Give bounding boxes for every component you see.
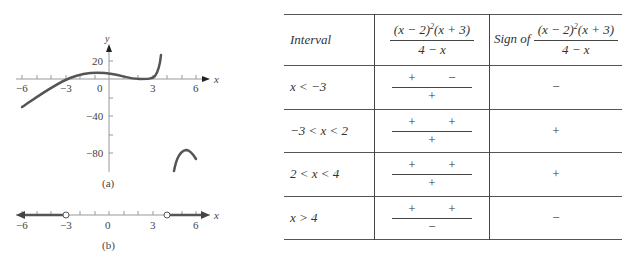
header-interval: Interval: [284, 15, 375, 66]
num-sign: +: [408, 70, 415, 86]
header-expression: (x − 2)2(x + 3) 4 − x: [375, 15, 490, 66]
x-tick-label: 0: [105, 219, 111, 231]
num-sign: +: [408, 157, 415, 173]
y-tick-label: 20: [92, 55, 104, 67]
open-point-4: [164, 212, 170, 218]
factor-signs-cell: +++: [375, 153, 490, 197]
interval-cell: −3 < x < 2: [284, 109, 375, 153]
table-header-row: Interval (x − 2)2(x + 3) 4 − x Sign of (…: [284, 15, 622, 66]
expression-fraction: (x − 2)2(x + 3) 4 − x: [390, 22, 474, 57]
caption-a: (a): [102, 177, 115, 190]
sign-cell: +: [490, 153, 623, 197]
expr-factor-a: (x − 2): [394, 23, 430, 38]
header-sign: Sign of (x − 2)2(x + 3) 4 − x: [490, 15, 623, 66]
sign-cell: −: [490, 66, 623, 110]
table-row: −3 < x < 2 +++ +: [284, 109, 622, 153]
x-tick-label: −3: [60, 82, 72, 94]
factor-signs-cell: +−+: [375, 66, 490, 110]
x-tick-label: 6: [193, 219, 199, 231]
table-row: 2 < x < 4 +++ +: [284, 153, 622, 197]
expr-factor-b: (x + 3): [434, 23, 470, 38]
table-row: x > 4 ++− −: [284, 196, 622, 240]
expr-denominator: 4 − x: [390, 41, 474, 58]
x-tick-label: 6: [193, 82, 199, 94]
x-tick-label: −6: [16, 82, 28, 94]
num-sign: +: [408, 114, 415, 130]
curve-right-branch: [174, 150, 196, 171]
interval-cell: x > 4: [284, 196, 375, 240]
x-tick-label: −6: [16, 219, 28, 231]
num-sign: +: [408, 201, 415, 217]
figure-graphs: x y −6 −3 0 3 6 20 −40 −80 (a): [0, 0, 240, 254]
table-row: x < −3 +−+ −: [284, 66, 622, 110]
factor-signs-cell: +++: [375, 109, 490, 153]
y-tick-label: −80: [86, 147, 104, 159]
sign-cell: +: [490, 109, 623, 153]
sign-of-label: Sign of: [494, 31, 530, 46]
sign-cell: −: [490, 196, 623, 240]
den-sign: +: [392, 88, 472, 104]
y-tick-label: −40: [86, 110, 104, 122]
sign-table: Interval (x − 2)2(x + 3) 4 − x Sign of (…: [284, 14, 622, 240]
factor-signs-cell: ++−: [375, 196, 490, 240]
num-sign: −: [448, 70, 455, 86]
y-axis-label: y: [104, 33, 110, 44]
graph-b: x −6 −3 0 3 6 (b): [16, 209, 219, 252]
caption-b: (b): [102, 239, 115, 252]
den-sign: −: [392, 219, 472, 235]
den-sign: +: [392, 175, 472, 191]
expr-factor-b: (x + 3): [578, 23, 614, 38]
num-sign: +: [448, 114, 455, 130]
x-axis-label-b: x: [213, 209, 219, 221]
expression-fraction: (x − 2)2(x + 3) 4 − x: [534, 22, 618, 57]
open-point-neg3: [63, 212, 69, 218]
x-tick-label: 0: [97, 82, 103, 94]
x-axis-label: x: [213, 73, 219, 85]
x-tick-label: 3: [150, 82, 156, 94]
expr-denominator: 4 − x: [534, 41, 618, 58]
den-sign: +: [392, 132, 472, 148]
interval-cell: 2 < x < 4: [284, 153, 375, 197]
num-sign: +: [448, 157, 455, 173]
interval-cell: x < −3: [284, 66, 375, 110]
x-tick-label: 3: [150, 219, 156, 231]
graph-a: x y −6 −3 0 3 6 20 −40 −80 (a): [16, 33, 219, 190]
num-sign: +: [448, 201, 455, 217]
x-tick-label: −3: [60, 219, 72, 231]
expr-factor-a: (x − 2): [538, 23, 574, 38]
